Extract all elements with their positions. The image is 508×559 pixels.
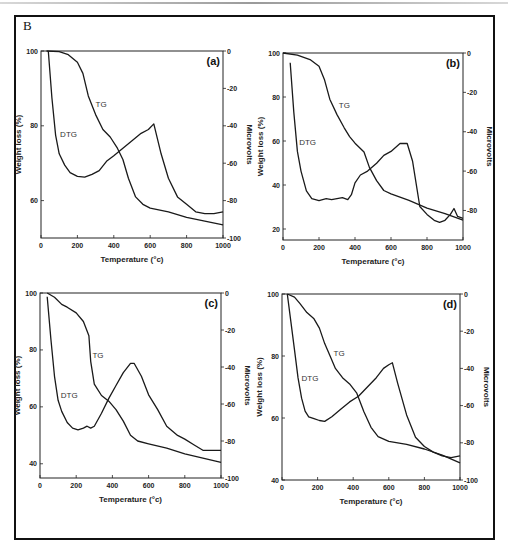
y2-axis-label: Microvolts bbox=[243, 365, 252, 406]
y2-tick-label: -40 bbox=[464, 365, 474, 372]
y2-tick-label: -40 bbox=[225, 364, 235, 371]
y-axis-label: Weight loss (%) bbox=[256, 116, 265, 176]
y2-tick-label: -80 bbox=[227, 197, 237, 204]
y-tick-label: 60 bbox=[271, 415, 279, 422]
y-tick-label: 100 bbox=[267, 291, 279, 298]
x-tick-label: 200 bbox=[72, 242, 84, 249]
series-tg-line bbox=[47, 293, 221, 462]
y2-tick-label: 0 bbox=[467, 50, 471, 57]
curve-label-tg: TG bbox=[339, 101, 350, 110]
y2-tick-label: -80 bbox=[225, 438, 235, 445]
x-tick-label: 400 bbox=[108, 242, 120, 249]
panel-label: (d) bbox=[443, 298, 457, 310]
y-axis-label: Weight loss (%) bbox=[13, 355, 22, 415]
x-axis-label: Temperature (°c) bbox=[100, 255, 163, 264]
x-tick-label: 400 bbox=[107, 482, 119, 489]
chart-panel-d: 020040060080010004060801000-20-40-60-80-… bbox=[255, 291, 491, 507]
plot-area bbox=[40, 293, 221, 478]
x-tick-label: 600 bbox=[144, 242, 156, 249]
y2-tick-label: -80 bbox=[464, 439, 474, 446]
curve-label-dtg: DTG bbox=[61, 391, 78, 400]
x-tick-label: 400 bbox=[347, 484, 359, 491]
x-tick-label: 200 bbox=[313, 244, 325, 251]
curve-label-dtg: DTG bbox=[60, 130, 77, 139]
x-tick-label: 800 bbox=[181, 242, 193, 249]
y-tick-label: 20 bbox=[272, 226, 280, 233]
x-tick-label: 1000 bbox=[455, 244, 471, 251]
x-axis-label: Temperature (°c) bbox=[339, 497, 402, 506]
x-tick-label: 400 bbox=[349, 244, 361, 251]
y2-tick-label: -40 bbox=[467, 128, 477, 135]
x-tick-label: 800 bbox=[421, 244, 433, 251]
y2-tick-label: -60 bbox=[225, 401, 235, 408]
series-dtg-line bbox=[290, 63, 463, 223]
y-tick-label: 100 bbox=[268, 50, 280, 57]
chart-panel-a: 0200400600800100060801000-20-40-60-80-10… bbox=[14, 48, 254, 265]
curve-label-tg: TG bbox=[92, 351, 103, 360]
y2-tick-label: -20 bbox=[464, 328, 474, 335]
y2-tick-label: 0 bbox=[227, 48, 231, 55]
y2-axis-label: Microvolts bbox=[482, 367, 491, 408]
x-tick-label: 200 bbox=[312, 484, 324, 491]
y2-tick-label: -20 bbox=[225, 327, 235, 334]
y2-tick-label: -20 bbox=[467, 89, 477, 96]
x-tick-label: 600 bbox=[383, 484, 395, 491]
x-tick-label: 0 bbox=[280, 484, 284, 491]
y-tick-label: 60 bbox=[29, 403, 37, 410]
y-tick-label: 100 bbox=[26, 48, 38, 55]
x-tick-label: 800 bbox=[179, 482, 191, 489]
x-tick-label: 200 bbox=[70, 482, 82, 489]
x-tick-label: 600 bbox=[143, 482, 155, 489]
x-tick-label: 0 bbox=[39, 242, 43, 249]
y-tick-label: 40 bbox=[272, 182, 280, 189]
y2-tick-label: 0 bbox=[225, 290, 229, 297]
curve-label-dtg: DTG bbox=[302, 374, 319, 383]
y-tick-label: 80 bbox=[29, 346, 37, 353]
plot-area bbox=[41, 51, 223, 238]
y-tick-label: 80 bbox=[30, 122, 38, 129]
y2-tick-label: -60 bbox=[467, 168, 477, 175]
y-tick-label: 60 bbox=[30, 197, 38, 204]
figure-canvas: 0200400600800100060801000-20-40-60-80-10… bbox=[0, 0, 508, 559]
chart-panel-c: 020040060080010004060801000-20-40-60-80-… bbox=[13, 290, 252, 505]
y2-tick-label: -100 bbox=[225, 475, 239, 482]
y2-tick-label: -20 bbox=[227, 85, 237, 92]
y2-tick-label: 0 bbox=[464, 291, 468, 298]
y-tick-label: 60 bbox=[272, 138, 280, 145]
curve-label-tg: TG bbox=[96, 100, 107, 109]
y-tick-label: 40 bbox=[271, 477, 279, 484]
x-axis-label: Temperature (°c) bbox=[99, 495, 162, 504]
panel-label: (b) bbox=[446, 57, 460, 69]
y-tick-label: 40 bbox=[29, 460, 37, 467]
x-tick-label: 600 bbox=[385, 244, 397, 251]
x-tick-label: 0 bbox=[281, 244, 285, 251]
y-axis-label: Weight loss (%) bbox=[14, 114, 23, 174]
chart-panel-b: 02004006008001000204060801000-20-40-60-8… bbox=[256, 50, 494, 267]
y-tick-label: 100 bbox=[25, 290, 37, 297]
y2-tick-label: -60 bbox=[227, 160, 237, 167]
y2-tick-label: -40 bbox=[227, 122, 237, 129]
y2-axis-label: Microvolts bbox=[485, 126, 494, 167]
x-tick-label: 1000 bbox=[452, 484, 468, 491]
y-tick-label: 80 bbox=[271, 353, 279, 360]
y-axis-label: Weight loss (%) bbox=[255, 357, 264, 417]
y2-axis-label: Microvolts bbox=[245, 124, 254, 165]
x-tick-label: 1000 bbox=[213, 482, 229, 489]
x-tick-label: 800 bbox=[419, 484, 431, 491]
series-dtg-line bbox=[47, 297, 221, 451]
curve-label-dtg: DTG bbox=[299, 138, 316, 147]
y2-tick-label: -80 bbox=[467, 207, 477, 214]
x-tick-label: 0 bbox=[38, 482, 42, 489]
curve-label-tg: TG bbox=[334, 349, 345, 358]
panel-label: (a) bbox=[207, 55, 221, 67]
y-tick-label: 80 bbox=[272, 94, 280, 101]
y2-tick-label: -60 bbox=[464, 402, 474, 409]
x-tick-label: 1000 bbox=[215, 242, 231, 249]
panel-label: (c) bbox=[205, 297, 219, 309]
x-axis-label: Temperature (°c) bbox=[341, 257, 404, 266]
y2-tick-label: -100 bbox=[227, 235, 241, 242]
y2-tick-label: -100 bbox=[464, 477, 478, 484]
